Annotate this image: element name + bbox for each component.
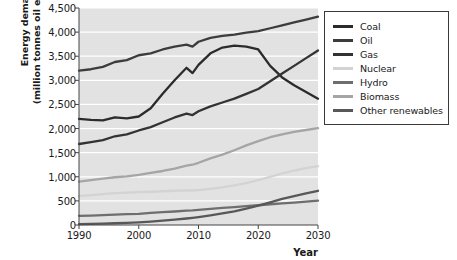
chart-legend: CoalOilGasNuclearHydroBiomassOther renew… [324,11,449,125]
y-tick-label: 3,500 [32,51,76,62]
legend-item-label: Nuclear [360,63,396,74]
y-tick-label: 2,000 [32,123,76,134]
y-tick-label: 3,000 [32,75,76,86]
legend-item-label: Oil [360,35,372,46]
x-tick-label: 2010 [186,230,211,241]
y-tick-label: 1,500 [32,147,76,158]
legend-swatch-icon [333,67,353,70]
legend-swatch-icon [333,95,353,98]
y-tick-label: 4,000 [32,27,76,38]
legend-item-oil[interactable]: Oil [325,33,448,47]
y-tick-label: 500 [32,195,76,206]
legend-item-label: Coal [360,21,381,32]
legend-item-other-renewables[interactable]: Other renewables [325,103,448,117]
legend-swatch-icon [333,25,353,28]
legend-item-nuclear[interactable]: Nuclear [325,61,448,75]
legend-item-hydro[interactable]: Hydro [325,75,448,89]
y-tick-label: 2,500 [32,99,76,110]
x-tick-label: 2020 [246,230,271,241]
y-tick-label: 1,000 [32,171,76,182]
y-tick-label: 0 [32,220,76,231]
legend-item-label: Biomass [360,91,399,102]
legend-item-label: Gas [360,49,378,60]
x-tick-label: 2030 [306,230,331,241]
legend-item-coal[interactable]: Coal [325,19,448,33]
legend-swatch-icon [333,53,353,56]
legend-item-label: Hydro [360,77,388,88]
energy-demand-line-chart: Energy demand (million tonnes oil equiva… [0,0,457,260]
legend-item-gas[interactable]: Gas [325,47,448,61]
legend-item-biomass[interactable]: Biomass [325,89,448,103]
x-tick-label: 1990 [67,230,92,241]
legend-item-label: Other renewables [360,105,443,116]
y-axis-tick-labels: 05001,0001,5002,0002,5003,0003,5004,0004… [28,0,76,260]
x-tick-label: 2000 [126,230,151,241]
x-axis-title: Year [293,247,318,258]
legend-swatch-icon [333,109,353,112]
legend-swatch-icon [333,39,353,42]
legend-swatch-icon [333,81,353,84]
y-tick-label: 4,500 [32,3,76,14]
